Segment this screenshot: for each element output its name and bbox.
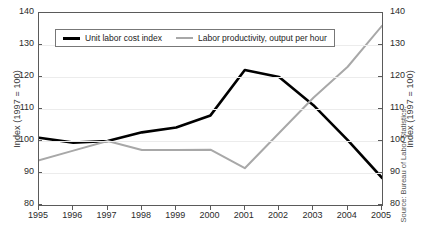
y-tick-label-left: 90: [4, 166, 34, 176]
y-tick-label-left: 140: [4, 6, 34, 16]
y-tick-label-left: 80: [4, 198, 34, 208]
gridline: [39, 173, 382, 174]
y-tick-label-right: 110: [390, 102, 420, 112]
y-tick-mark-right: [378, 44, 382, 45]
x-tick-mark: [141, 206, 142, 210]
legend-swatch: [176, 37, 193, 39]
x-tick-mark: [347, 206, 348, 210]
y-tick-label-right: 80: [390, 198, 420, 208]
legend-label: Unit labor cost index: [85, 33, 162, 43]
legend-label: Labor productivity, output per hour: [198, 33, 327, 43]
x-tick-mark: [312, 206, 313, 210]
y-tick-label-right: 120: [390, 70, 420, 80]
y-tick-label-left: 130: [4, 38, 34, 48]
x-tick-mark: [278, 206, 279, 210]
gridline: [39, 77, 382, 78]
gridline: [39, 141, 382, 142]
y-tick-mark-left: [38, 204, 42, 205]
y-tick-label-right: 130: [390, 38, 420, 48]
x-tick-mark: [381, 206, 382, 210]
x-tick-mark: [210, 206, 211, 210]
y-tick-mark-right: [378, 76, 382, 77]
y-tick-mark-left: [38, 12, 42, 13]
legend-item: Unit labor cost index: [63, 33, 162, 43]
y-tick-label-right: 100: [390, 134, 420, 144]
y-tick-mark-right: [378, 140, 382, 141]
y-tick-label-right: 140: [390, 6, 420, 16]
x-tick-mark: [244, 206, 245, 210]
y-tick-mark-left: [38, 140, 42, 141]
gridline: [39, 109, 382, 110]
chart-container: Index (1997 = 100) Index (1997 = 100) So…: [0, 0, 426, 236]
x-tick-mark: [107, 206, 108, 210]
x-tick-mark: [38, 206, 39, 210]
y-tick-mark-right: [378, 12, 382, 13]
y-tick-mark-right: [378, 204, 382, 205]
y-tick-mark-right: [378, 108, 382, 109]
x-tick-mark: [175, 206, 176, 210]
y-tick-mark-left: [38, 172, 42, 173]
y-tick-label-left: 110: [4, 102, 34, 112]
y-tick-mark-right: [378, 172, 382, 173]
legend-swatch: [63, 37, 80, 40]
x-tick-label: 2005: [361, 210, 401, 220]
y-tick-label-left: 120: [4, 70, 34, 80]
x-tick-mark: [72, 206, 73, 210]
y-tick-mark-left: [38, 108, 42, 109]
legend-item: Labor productivity, output per hour: [176, 33, 327, 43]
y-tick-mark-left: [38, 44, 42, 45]
chart-legend: Unit labor cost indexLabor productivity,…: [55, 29, 335, 47]
y-tick-mark-left: [38, 76, 42, 77]
y-tick-label-right: 90: [390, 166, 420, 176]
y-tick-label-left: 100: [4, 134, 34, 144]
